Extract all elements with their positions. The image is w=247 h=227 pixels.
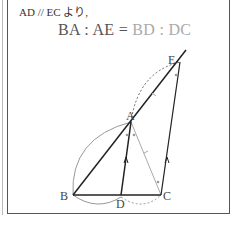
label-A: A bbox=[126, 109, 135, 123]
angle-mark-ACE bbox=[157, 181, 160, 184]
label-B: B bbox=[60, 189, 68, 203]
angle-mark-AEC bbox=[175, 74, 178, 77]
tick-AE bbox=[152, 93, 156, 96]
parallel-arrow-EC bbox=[165, 157, 169, 163]
arc-DC-dashed bbox=[121, 195, 161, 204]
arc-BD bbox=[73, 195, 121, 204]
segment-AC bbox=[131, 122, 161, 195]
segment-EC bbox=[161, 62, 180, 195]
label-E: E bbox=[168, 53, 175, 67]
tick-AC bbox=[144, 151, 148, 153]
label-C: C bbox=[163, 189, 171, 203]
angle-mark-BAD bbox=[126, 134, 129, 137]
geometry-figure: A B C D E bbox=[0, 0, 247, 227]
label-D: D bbox=[116, 197, 125, 211]
angle-mark-DAC bbox=[133, 134, 136, 137]
